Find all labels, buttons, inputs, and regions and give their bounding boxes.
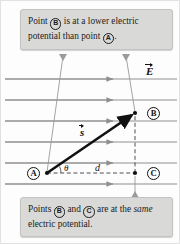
field-vector-label: E bbox=[146, 63, 153, 77]
vector-overbar-icon bbox=[145, 63, 152, 66]
point-a-label: A bbox=[27, 167, 40, 180]
point-a-dot bbox=[45, 171, 49, 175]
point-a-inline-icon: A bbox=[103, 33, 115, 45]
vector-overbar-icon-2 bbox=[79, 124, 83, 127]
point-b-inline-icon-2: B bbox=[54, 206, 66, 218]
callout-bottom-emphasis: same bbox=[133, 204, 152, 214]
displacement-vector-label: s bbox=[80, 124, 84, 138]
callout-bottom: Points B and C are at the same electric … bbox=[20, 197, 173, 237]
displacement-vector-s bbox=[47, 115, 132, 173]
angle-theta-arc bbox=[60, 167, 61, 173]
callout-bottom-text-3: are at the bbox=[97, 204, 131, 214]
callout-bottom-text-1: Points bbox=[28, 204, 51, 214]
point-b-inline-icon: B bbox=[50, 18, 62, 30]
field-vector-letter: E bbox=[146, 65, 153, 77]
point-b-dot bbox=[133, 111, 137, 115]
callout-leader-lines bbox=[47, 54, 139, 198]
callout-bottom-text-4: electric potential. bbox=[28, 219, 93, 229]
point-c-inline-icon: C bbox=[83, 206, 95, 218]
callout-bottom-text-2: and bbox=[67, 204, 80, 214]
callout-top: Point B is at a lower electric potential… bbox=[20, 9, 173, 50]
distance-label: d bbox=[95, 163, 100, 173]
callout-top-text-1: Point bbox=[28, 16, 48, 26]
callout-top-text-3: . bbox=[114, 31, 116, 41]
physics-figure: Point B is at a lower electric potential… bbox=[0, 0, 180, 244]
point-b-label: B bbox=[147, 107, 160, 120]
point-c-dot bbox=[133, 171, 137, 175]
displacement-vector-letter: s bbox=[80, 126, 84, 138]
angle-label: θ bbox=[64, 164, 68, 173]
point-c-label: C bbox=[147, 167, 160, 180]
